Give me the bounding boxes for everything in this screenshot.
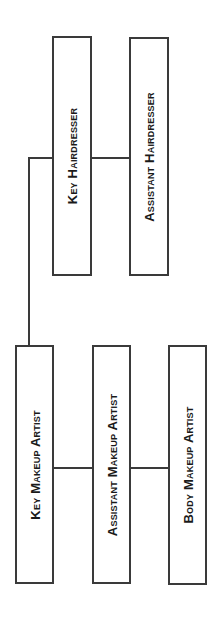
node-key-hairdresser: Key Hairdresser bbox=[52, 36, 92, 276]
connector-key-hair-to-assistant-hair bbox=[91, 157, 131, 159]
node-label: Key Makeup Artist bbox=[27, 410, 42, 519]
node-label: Key Hairdresser bbox=[65, 108, 80, 204]
node-key-makeup-artist: Key Makeup Artist bbox=[15, 345, 54, 584]
node-assistant-hairdresser: Assistant Hairdresser bbox=[129, 37, 169, 276]
node-label: Assistant Hairdresser bbox=[142, 92, 157, 221]
node-body-makeup-artist: Body Makeup Artist bbox=[168, 345, 207, 585]
connector-key-makeup-to-assistant-makeup bbox=[53, 467, 93, 469]
node-label: Body Makeup Artist bbox=[180, 407, 195, 524]
connector-assistant-makeup-to-body-makeup bbox=[130, 467, 169, 469]
connector-key-makeup-to-key-hair-vertical bbox=[28, 157, 30, 346]
node-label: Assistant Makeup Artist bbox=[104, 393, 119, 535]
node-assistant-makeup-artist: Assistant Makeup Artist bbox=[92, 345, 131, 584]
connector-key-makeup-to-key-hair-horizontal bbox=[28, 157, 53, 159]
